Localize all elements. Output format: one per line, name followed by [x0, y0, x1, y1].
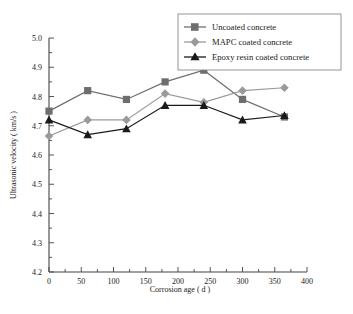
diamond-marker-icon — [45, 132, 54, 141]
triangle-marker-icon — [122, 124, 131, 132]
plot-area: 4.24.34.44.54.64.74.84.95.00501001502002… — [0, 0, 353, 314]
y-tick-label: 4.8 — [32, 93, 42, 102]
x-tick-label: 50 — [77, 277, 85, 286]
square-marker-icon — [84, 87, 91, 94]
triangle-marker-icon — [45, 116, 54, 124]
x-axis-label: Corrosion age ( d ) — [150, 285, 211, 294]
x-tick-label: 300 — [237, 277, 249, 286]
axis-ticks — [49, 38, 307, 272]
data-series-group — [45, 67, 289, 141]
square-marker-icon — [45, 108, 52, 115]
axis-lines — [49, 38, 307, 272]
y-tick-label: 4.6 — [32, 151, 42, 160]
y-tick-label: 4.4 — [32, 210, 42, 219]
square-marker-icon — [191, 23, 199, 31]
x-tick-label: 0 — [47, 277, 51, 286]
square-marker-icon — [123, 96, 130, 103]
square-marker-icon — [162, 78, 169, 85]
legend-item-uncoated[interactable]: Uncoated concrete — [184, 22, 276, 32]
diamond-marker-icon — [83, 116, 92, 125]
diamond-marker-icon — [122, 116, 131, 125]
x-tick-label: 400 — [301, 277, 313, 286]
legend-label-uncoated: Uncoated concrete — [212, 22, 276, 32]
y-tick-label: 4.5 — [32, 180, 42, 189]
y-tick-label: 4.9 — [32, 63, 42, 72]
y-tick-label: 4.7 — [32, 122, 42, 131]
diamond-marker-icon — [280, 83, 289, 92]
y-tick-label: 5.0 — [32, 34, 42, 43]
tick-labels: 4.24.34.44.54.64.74.84.95.00501001502002… — [32, 34, 313, 286]
square-marker-icon — [239, 96, 246, 103]
legend: Uncoated concrete MAPC coated concrete E… — [178, 14, 341, 70]
y-tick-label: 4.2 — [32, 268, 42, 277]
x-tick-label: 100 — [108, 277, 120, 286]
y-axis-label: Ultrasonic velocity ( km/s ) — [9, 111, 18, 199]
legend-label-mapc: MAPC coated concrete — [212, 37, 292, 47]
x-tick-label: 350 — [269, 277, 281, 286]
ultrasonic-velocity-chart: 4.24.34.44.54.64.74.84.95.00501001502002… — [0, 0, 353, 314]
diamond-marker-icon — [161, 89, 170, 98]
diamond-marker-icon — [238, 86, 247, 95]
y-tick-label: 4.3 — [32, 239, 42, 248]
legend-label-epoxy: Epoxy resin coated concrete — [212, 52, 309, 62]
